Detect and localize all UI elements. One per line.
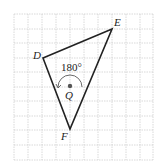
label-d: D bbox=[33, 50, 41, 61]
label-q: Q bbox=[65, 90, 73, 101]
grid-diagram bbox=[0, 0, 154, 168]
label-e: E bbox=[114, 17, 121, 28]
angle-label: 180° bbox=[61, 62, 82, 73]
point-q bbox=[68, 84, 72, 88]
triangle-def bbox=[43, 29, 112, 129]
grid bbox=[14, 14, 153, 160]
label-f: F bbox=[61, 131, 68, 142]
